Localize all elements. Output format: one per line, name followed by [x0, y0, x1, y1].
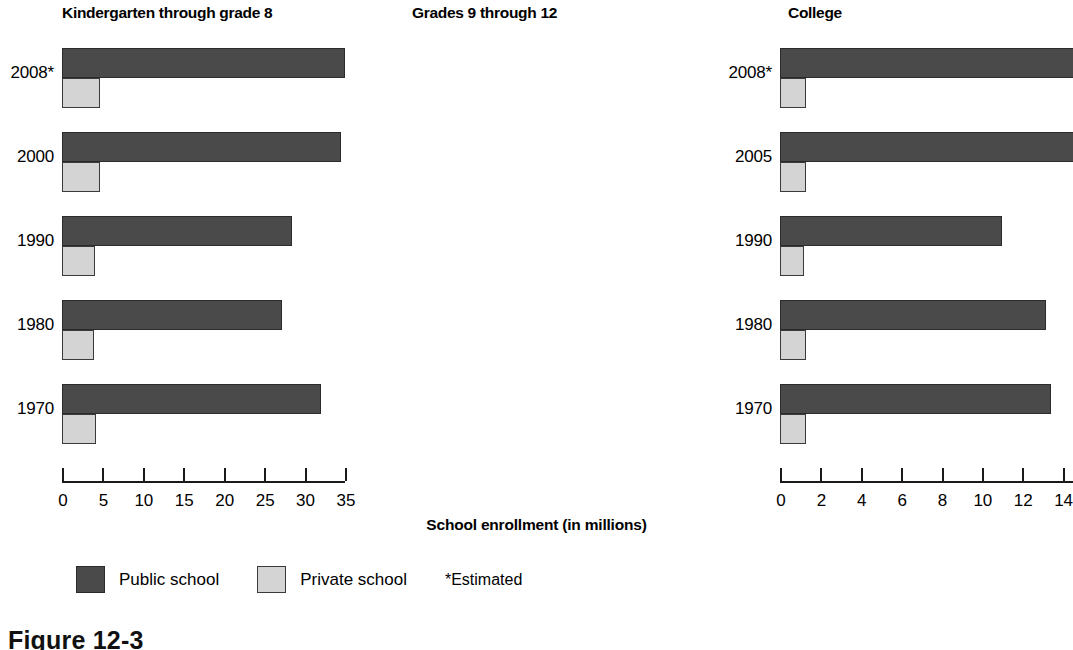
bar-private — [62, 330, 94, 360]
bar-private — [62, 162, 100, 192]
axis-tick — [305, 468, 307, 481]
caption-divider — [0, 618, 1073, 619]
axis-tick-label: 20 — [205, 491, 245, 511]
bar-public — [62, 384, 321, 414]
axis-tick — [345, 468, 347, 481]
year-label: 2008* — [0, 63, 54, 83]
bar-public — [62, 132, 341, 162]
axis-tick-label: 5 — [83, 491, 123, 511]
year-label: 2000 — [0, 147, 54, 167]
panel-title: College — [788, 4, 842, 22]
legend-item-public: Public school — [76, 566, 219, 593]
axis-tick — [224, 468, 226, 481]
axis-tick — [102, 468, 104, 481]
chart-panel-grades-9-12: Grades 9 through 12 2008*200519901980197… — [368, 0, 736, 560]
axis-tick — [143, 468, 145, 481]
private-swatch-icon — [257, 566, 286, 593]
axis-tick-label: 25 — [245, 491, 285, 511]
bar-private — [62, 246, 95, 276]
legend: Public school Private school *Estimated — [76, 566, 522, 593]
axis-tick — [183, 468, 185, 481]
bar-group: 1980 — [62, 288, 345, 372]
bar-group: 1970 — [62, 372, 345, 456]
bar-private — [62, 78, 100, 108]
panel-title: Grades 9 through 12 — [412, 4, 557, 22]
x-axis: 05101520253035 — [62, 481, 345, 483]
figure-caption: Figure 12-3 — [8, 626, 144, 650]
legend-label: Private school — [300, 570, 407, 590]
axis-tick-label: 15 — [164, 491, 204, 511]
legend-footnote: *Estimated — [445, 571, 522, 589]
bar-group: 2000 — [62, 120, 345, 204]
bar-public — [62, 48, 345, 78]
bar-public — [62, 216, 292, 246]
chart-panel-college: College 2008*2005199019801970 024681012 — [736, 0, 1073, 560]
axis-tick-label: 10 — [124, 491, 164, 511]
bar-public — [62, 300, 282, 330]
figure-school-enrollment: Kindergarten through grade 8 2008*200019… — [0, 0, 1073, 650]
bar-group: 2008* — [62, 36, 345, 120]
year-label: 1970 — [0, 399, 54, 419]
bar-private — [62, 414, 96, 444]
axis-tick-label: 35 — [326, 491, 366, 511]
bar-group: 1990 — [62, 204, 345, 288]
chart-panel-kindergarten-grade-8: Kindergarten through grade 8 2008*200019… — [0, 0, 368, 560]
x-axis-title: School enrollment (in millions) — [0, 516, 1073, 534]
axis-tick — [62, 468, 64, 481]
legend-label: Public school — [119, 570, 219, 590]
year-label: 1990 — [0, 231, 54, 251]
panel-title: Kindergarten through grade 8 — [62, 4, 272, 22]
plot-area: 2008*2000199019801970 — [62, 36, 345, 456]
legend-item-private: Private school — [257, 566, 407, 593]
axis-tick — [264, 468, 266, 481]
axis-tick-label: 30 — [286, 491, 326, 511]
public-swatch-icon — [76, 566, 105, 593]
year-label: 1980 — [0, 315, 54, 335]
axis-tick-label: 0 — [43, 491, 83, 511]
